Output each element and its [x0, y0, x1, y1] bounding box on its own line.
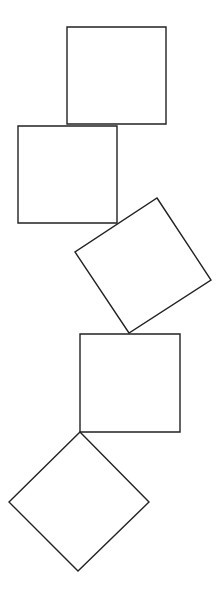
stacked-squares-diagram	[0, 0, 224, 594]
background	[0, 0, 224, 594]
